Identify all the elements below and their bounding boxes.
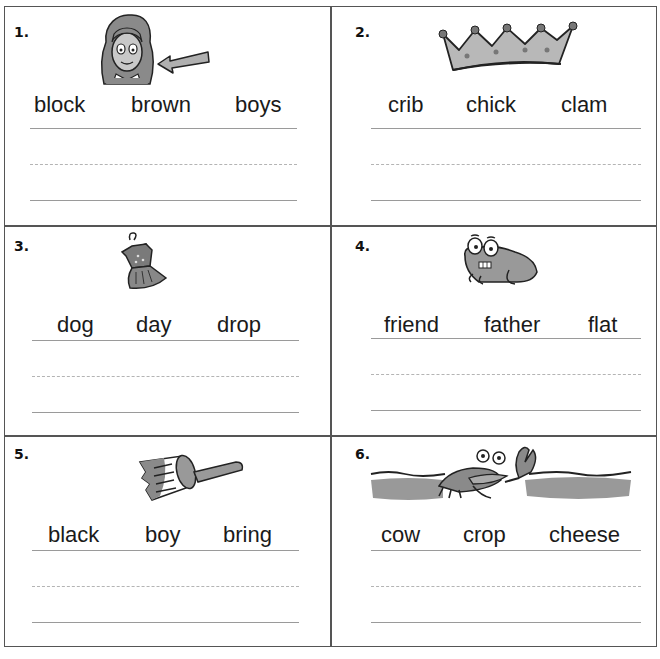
writing-line-middle xyxy=(30,164,297,165)
crown-icon xyxy=(437,20,579,80)
word-option: crop xyxy=(463,522,506,548)
writing-line-bottom xyxy=(30,200,297,201)
panel-5: 5. black boy bring xyxy=(4,436,330,646)
panel-number: 6. xyxy=(355,446,370,462)
writing-line-top xyxy=(32,340,299,341)
word-option: day xyxy=(136,312,171,338)
writing-line-middle xyxy=(371,164,641,165)
panel-number: 1. xyxy=(14,24,29,40)
word-option: black xyxy=(48,522,99,548)
writing-line-bottom xyxy=(371,622,641,623)
word-option: block xyxy=(34,92,85,118)
writing-line-top xyxy=(30,128,297,129)
dress-icon xyxy=(116,230,172,292)
panel-1: 1. block brown boys xyxy=(4,6,330,216)
word-option: clam xyxy=(561,92,607,118)
word-option: boys xyxy=(235,92,281,118)
writing-line-bottom xyxy=(371,200,641,201)
girl-icon xyxy=(96,12,214,88)
crab-icon xyxy=(369,440,635,502)
word-option: drop xyxy=(217,312,261,338)
word-option: friend xyxy=(384,312,439,338)
panel-number: 3. xyxy=(14,238,29,254)
word-option: flat xyxy=(588,312,617,338)
word-option: boy xyxy=(145,522,180,548)
panel-number: 4. xyxy=(355,238,370,254)
writing-line-middle xyxy=(371,374,641,375)
word-option: father xyxy=(484,312,540,338)
word-option: dog xyxy=(57,312,94,338)
writing-line-bottom xyxy=(371,410,641,411)
writing-line-bottom xyxy=(32,412,299,413)
panel-2: 2. crib chick clam xyxy=(331,6,657,216)
panel-3: 3. dog day drop xyxy=(4,226,330,436)
writing-line-middle xyxy=(32,376,299,377)
word-option: brown xyxy=(131,92,191,118)
panel-number: 5. xyxy=(14,446,29,462)
writing-line-top xyxy=(371,550,641,551)
panel-number: 2. xyxy=(355,24,370,40)
writing-line-bottom xyxy=(32,622,299,623)
frog-icon xyxy=(459,232,541,290)
paintbrush-icon xyxy=(138,450,246,502)
word-option: chick xyxy=(466,92,516,118)
writing-line-top xyxy=(371,128,641,129)
writing-line-middle xyxy=(32,586,299,587)
writing-line-top xyxy=(371,338,641,339)
writing-line-middle xyxy=(371,586,641,587)
writing-line-top xyxy=(32,550,299,551)
panel-6: 6. cow crop cheese xyxy=(331,436,657,646)
word-option: bring xyxy=(223,522,272,548)
word-option: crib xyxy=(388,92,423,118)
word-option: cow xyxy=(381,522,420,548)
panel-4: 4. friend father flat xyxy=(331,226,657,436)
word-option: cheese xyxy=(549,522,620,548)
